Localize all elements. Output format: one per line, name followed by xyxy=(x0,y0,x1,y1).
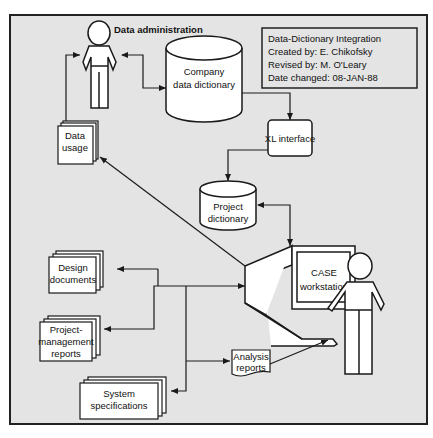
data-usage-label-1: Data xyxy=(65,130,86,141)
title-block: Data-Dictionary Integration Created by: … xyxy=(262,28,417,88)
title-line-4: Date changed: 08-JAN-88 xyxy=(268,72,378,83)
system-specs-label-2: specifications xyxy=(90,400,147,411)
title-line-1: Data-Dictionary Integration xyxy=(268,33,381,44)
analysis-reports-label-2: reports xyxy=(236,362,266,373)
analysis-reports-label-1: Analysis xyxy=(233,351,269,362)
title-line-3: Revised by: M. O'Leary xyxy=(268,59,367,70)
system-specs-label-1: System xyxy=(103,388,135,399)
pm-reports-label-1: Project- xyxy=(50,324,83,335)
data-administration-label: Data administration xyxy=(114,24,203,35)
case-workstation-label-1: CASE xyxy=(311,267,337,278)
company-dictionary-label-1: Company xyxy=(184,66,225,77)
data-usage-label-2: usage xyxy=(62,142,88,153)
title-line-2: Created by: E. Chikofsky xyxy=(268,46,373,57)
xl-interface-label: XL interface xyxy=(265,133,315,144)
pm-reports-label-2: management xyxy=(38,336,94,347)
design-documents-label-1: Design xyxy=(58,262,88,273)
company-dictionary-label-2: data dictionary xyxy=(173,79,235,90)
project-dictionary-label-1: Project xyxy=(213,201,243,212)
pm-reports-label-3: reports xyxy=(51,348,81,359)
project-dictionary-label-2: dictionary xyxy=(208,213,249,224)
data-dictionary-diagram: Data-Dictionary Integration Created by: … xyxy=(0,0,433,438)
design-documents-label-2: documents xyxy=(50,274,97,285)
